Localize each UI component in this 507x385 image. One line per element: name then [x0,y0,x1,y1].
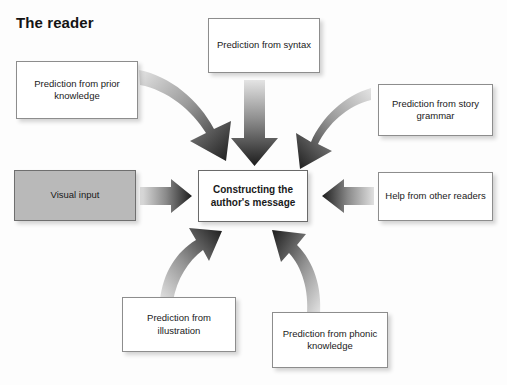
node-constructing-the-authors-message[interactable]: Constructing the author's message [198,170,308,222]
node-label: Visual input [51,189,100,202]
arrow-illustration-to-center [160,228,222,301]
node-prediction-from-prior-knowledge[interactable]: Prediction from prior knowledge [16,61,138,119]
arrow-visual-input-to-center [140,179,192,213]
arrow-syntax-to-center [231,80,278,166]
arrow-phonic-knowledge-to-center [272,230,320,315]
node-prediction-from-story-grammar[interactable]: Prediction from story grammar [378,84,493,136]
page-title: The reader [16,14,94,31]
node-help-from-other-readers[interactable]: Help from other readers [378,172,493,221]
node-label: Constructing the author's message [203,183,303,209]
node-label: Prediction from story grammar [383,98,488,123]
node-label: Prediction from syntax [217,39,311,52]
arrow-prior-knowledge-to-center [139,70,231,161]
node-label: Prediction from illustration [127,312,231,337]
arrow-story-grammar-to-center [296,88,371,169]
node-prediction-from-syntax[interactable]: Prediction from syntax [208,18,320,73]
diagram-canvas: The reader [0,0,507,385]
node-prediction-from-phonic-knowledge[interactable]: Prediction from phonic knowledge [272,312,388,368]
node-prediction-from-illustration[interactable]: Prediction from illustration [122,297,236,352]
node-label: Help from other readers [385,190,485,203]
arrow-other-readers-to-center [322,179,374,213]
node-label: Prediction from prior knowledge [21,78,133,103]
node-visual-input[interactable]: Visual input [14,170,136,221]
node-label: Prediction from phonic knowledge [277,328,383,353]
